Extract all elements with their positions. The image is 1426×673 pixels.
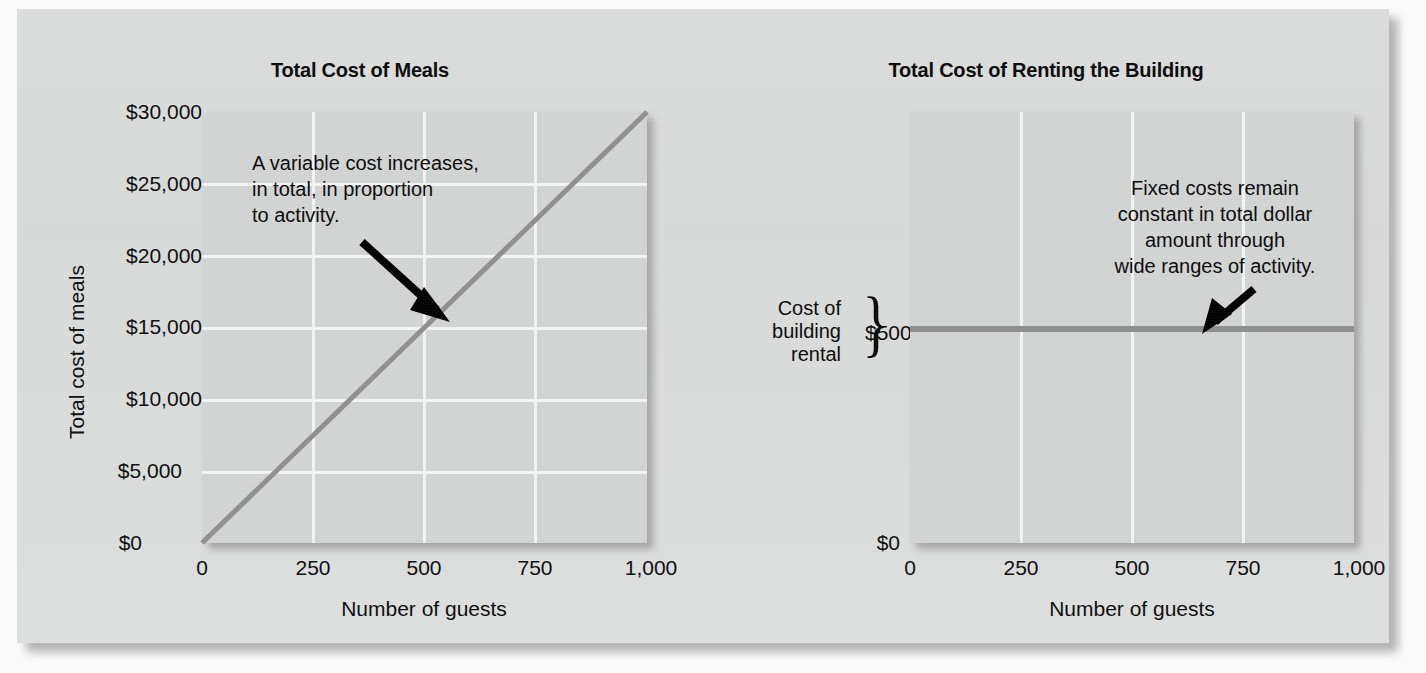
chart-title-meals: Total Cost of Meals: [17, 59, 703, 82]
plot-area-rent: Fixed costs remain constant in total dol…: [910, 112, 1354, 543]
y-tick-label: $0: [810, 531, 900, 555]
x-tick-label: 500: [406, 556, 441, 580]
x-tick-label: 500: [1114, 556, 1149, 580]
y-tick-label: $30,000: [52, 100, 202, 124]
x-tick-label: 1,000: [1333, 556, 1386, 580]
x-tick-label: 750: [517, 556, 552, 580]
y-tick-label: $0: [52, 531, 142, 555]
brace-label-building-rental: Cost of building rental: [711, 297, 841, 366]
y-tick-label: $20,000: [52, 244, 202, 268]
annotation-arrow-icon: [910, 112, 1354, 543]
x-tick-label: 0: [904, 556, 916, 580]
y-tick-label: $25,000: [52, 172, 202, 196]
brace-amount-500: $500: [865, 321, 912, 345]
y-tick-label: $5,000: [52, 459, 182, 483]
chart-title-rent: Total Cost of Renting the Building: [703, 59, 1389, 82]
x-tick-label: 1,000: [625, 556, 678, 580]
x-tick-label: 250: [295, 556, 330, 580]
y-tick-label: $15,000: [52, 315, 202, 339]
annotation-arrow-icon: [202, 112, 647, 543]
y-tick-label: $10,000: [52, 387, 202, 411]
y-axis-title-meals: Total cost of meals: [65, 265, 89, 439]
x-axis-title-rent: Number of guests: [1049, 597, 1215, 621]
chart-total-cost-of-meals: Total Cost of Meals Total cost of meals …: [17, 9, 703, 643]
x-tick-label: 0: [196, 556, 208, 580]
figure-panel: Total Cost of Meals Total cost of meals …: [17, 9, 1389, 643]
x-tick-label: 250: [1003, 556, 1038, 580]
figure-stage: Total Cost of Renting the Building A var…: [0, 0, 1426, 673]
plot-area-meals: A variable cost increases, in total, in …: [202, 112, 647, 543]
chart-total-cost-of-renting: Total Cost of Renting the Building Cost …: [703, 9, 1389, 643]
x-tick-label: 750: [1225, 556, 1260, 580]
x-axis-title-meals: Number of guests: [341, 597, 507, 621]
